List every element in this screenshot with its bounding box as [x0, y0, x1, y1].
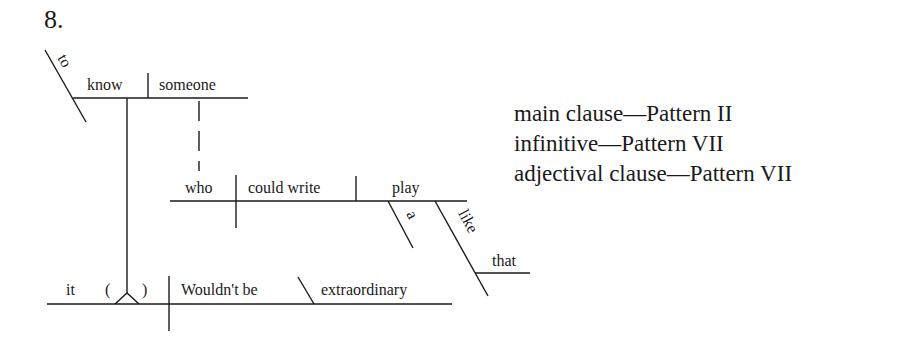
main-close-paren: )	[142, 281, 147, 299]
note-pattern: Pattern II	[646, 101, 732, 126]
prep-object-word: that	[492, 252, 517, 269]
infinitive-verb-word: know	[87, 76, 123, 93]
adjectival-subject-word: who	[185, 179, 213, 196]
note-pattern: Pattern VII	[621, 131, 723, 156]
stilt-base	[115, 293, 139, 304]
note-adjectival-clause: adjectival clause—Pattern VII	[514, 159, 792, 189]
note-infinitive: infinitive—Pattern VII	[514, 129, 792, 159]
note-main-clause: main clause—Pattern II	[514, 99, 792, 129]
note-label: infinitive	[514, 131, 598, 156]
main-complement-word: extraordinary	[321, 281, 407, 299]
main-open-paren: (	[105, 281, 110, 299]
pattern-notes: main clause—Pattern II infinitive—Patter…	[514, 99, 792, 189]
note-dash: —	[623, 101, 646, 126]
note-dash: —	[598, 131, 621, 156]
note-label: main clause	[514, 101, 623, 126]
adjectival-object-word: play	[392, 179, 420, 197]
main-subject-word: it	[66, 281, 75, 298]
article-modifier-word: a	[403, 207, 421, 221]
note-dash: —	[667, 161, 690, 186]
exercise-number: 8.	[44, 5, 64, 34]
main-verb-word: Wouldn't be	[181, 281, 258, 298]
article-modifier-diagonal	[388, 201, 413, 248]
main-complement-divider	[298, 277, 314, 304]
preposition-word: like	[455, 206, 481, 235]
infinitive-object-word: someone	[159, 76, 216, 93]
note-pattern: Pattern VII	[690, 161, 792, 186]
note-label: adjectival clause	[514, 161, 667, 186]
adjectival-verb-word: could write	[248, 179, 320, 196]
infinitive-marker-word: to	[54, 51, 75, 70]
